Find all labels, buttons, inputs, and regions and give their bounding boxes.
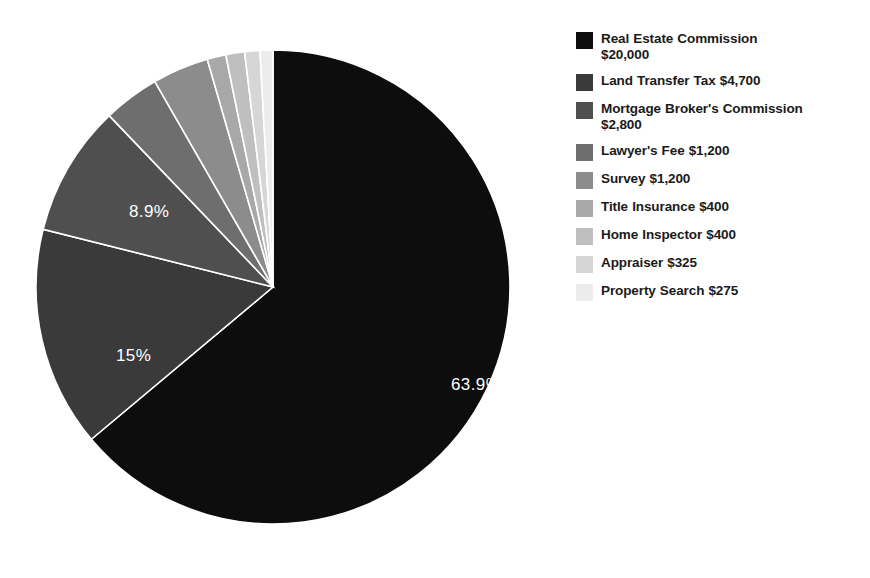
- legend-item-label: Real Estate Commission $20,000: [601, 31, 806, 63]
- legend-item[interactable]: Home Inspector $400: [576, 227, 858, 245]
- pie-slice-percent-label: 63.9%: [451, 375, 501, 394]
- legend-swatch-mortgage-brokers-commission: [576, 102, 593, 119]
- legend-item-label: Lawyer's Fee $1,200: [601, 143, 729, 159]
- pie-slice-group: [36, 50, 510, 524]
- legend-item-label: Appraiser $325: [601, 255, 697, 271]
- legend-item[interactable]: Appraiser $325: [576, 255, 858, 273]
- pie-slice-percent-label: 15%: [116, 346, 151, 365]
- legend-item[interactable]: Survey $1,200: [576, 171, 858, 189]
- chart-legend: Real Estate Commission $20,000Land Trans…: [576, 31, 858, 311]
- legend-item[interactable]: Property Search $275: [576, 283, 858, 301]
- legend-item-label: Property Search $275: [601, 283, 738, 299]
- legend-swatch-real-estate-commission: [576, 32, 593, 49]
- legend-item[interactable]: Lawyer's Fee $1,200: [576, 143, 858, 161]
- legend-swatch-title-insurance: [576, 200, 593, 217]
- legend-swatch-survey: [576, 172, 593, 189]
- legend-swatch-land-transfer-tax: [576, 74, 593, 91]
- legend-item-label: Title Insurance $400: [601, 199, 729, 215]
- pie-chart-svg: 63.9%15%8.9%: [33, 23, 515, 551]
- legend-item-label: Home Inspector $400: [601, 227, 736, 243]
- legend-swatch-home-inspector: [576, 228, 593, 245]
- legend-item-label: Land Transfer Tax $4,700: [601, 73, 760, 89]
- pie-chart-plot-area: 63.9%15%8.9%: [33, 23, 515, 551]
- legend-item[interactable]: Land Transfer Tax $4,700: [576, 73, 858, 91]
- legend-item[interactable]: Mortgage Broker's Commission $2,800: [576, 101, 858, 133]
- legend-item[interactable]: Real Estate Commission $20,000: [576, 31, 858, 63]
- pie-slice-percent-label: 8.9%: [129, 202, 169, 221]
- legend-item-label: Mortgage Broker's Commission $2,800: [601, 101, 806, 133]
- legend-swatch-property-search: [576, 284, 593, 301]
- pie-chart-figure: 63.9%15%8.9% Real Estate Commission $20,…: [0, 0, 870, 578]
- legend-item[interactable]: Title Insurance $400: [576, 199, 858, 217]
- legend-swatch-lawyers-fee: [576, 144, 593, 161]
- legend-swatch-appraiser: [576, 256, 593, 273]
- legend-item-label: Survey $1,200: [601, 171, 690, 187]
